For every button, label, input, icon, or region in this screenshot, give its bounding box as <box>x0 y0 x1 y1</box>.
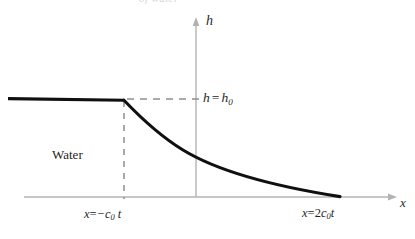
left-front-c: −c <box>97 207 111 221</box>
h0-label-subscript: 0 <box>228 97 233 107</box>
right-front-t: t <box>331 206 334 220</box>
h-axis-label: h <box>206 14 213 28</box>
water-region-label: Water <box>52 148 83 161</box>
vertical-axis <box>193 17 200 197</box>
diagram-canvas <box>0 0 415 239</box>
left-front-label: x=−c0t <box>84 208 121 222</box>
right-front-equals: = <box>308 206 315 220</box>
left-front-equals: = <box>90 207 97 221</box>
right-front-label: x=2c0t <box>302 207 334 221</box>
x-axis-label: x <box>400 196 406 209</box>
h0-level-label: h=h0 <box>203 91 233 107</box>
h0-label-equals: = <box>210 90 222 105</box>
left-front-t: t <box>115 207 121 221</box>
figure-container: of water h x h=h0 Water <box>0 0 415 239</box>
h0-label-h: h <box>203 90 210 105</box>
